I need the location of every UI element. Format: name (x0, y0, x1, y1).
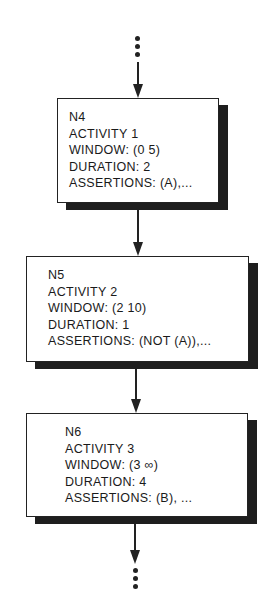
edge-n4-to-n5 (137, 210, 139, 246)
dot (133, 584, 138, 589)
node-n4: N4 ACTIVITY 1 WINDOW: (0 5) DURATION: 2 … (57, 98, 219, 203)
node-n5: N5 ACTIVITY 2 WINDOW: (2 10) DURATION: 1… (26, 256, 249, 362)
arrowhead-icon (133, 84, 143, 98)
node-assertions: ASSERTIONS: (NOT (A)),... (48, 333, 211, 350)
arrowhead-icon (131, 399, 141, 413)
node-window: WINDOW: (2 10) (48, 300, 211, 317)
arrowhead-icon (130, 550, 140, 564)
node-id: N6 (65, 424, 192, 441)
node-window: WINDOW: (0 5) (69, 142, 193, 159)
dot (133, 576, 138, 581)
dot (135, 44, 140, 49)
node-duration: DURATION: 4 (65, 474, 192, 491)
node-duration: DURATION: 1 (48, 317, 211, 334)
node-duration: DURATION: 2 (69, 159, 193, 176)
node-activity: ACTIVITY 2 (48, 284, 211, 301)
node-window: WINDOW: (3 ∞) (65, 457, 192, 474)
dot (133, 568, 138, 573)
node-assertions: ASSERTIONS: (B), ... (65, 490, 192, 507)
dot (135, 52, 140, 57)
arrowhead-icon (133, 242, 143, 256)
node-id: N4 (69, 109, 193, 126)
edge-n5-to-n6 (135, 369, 137, 403)
node-n6: N6 ACTIVITY 3 WINDOW: (3 ∞) DURATION: 4 … (26, 413, 248, 517)
node-activity: ACTIVITY 3 (65, 441, 192, 458)
node-activity: ACTIVITY 1 (69, 126, 193, 143)
dot (135, 36, 140, 41)
node-id: N5 (48, 267, 211, 284)
node-assertions: ASSERTIONS: (A),... (69, 175, 193, 192)
